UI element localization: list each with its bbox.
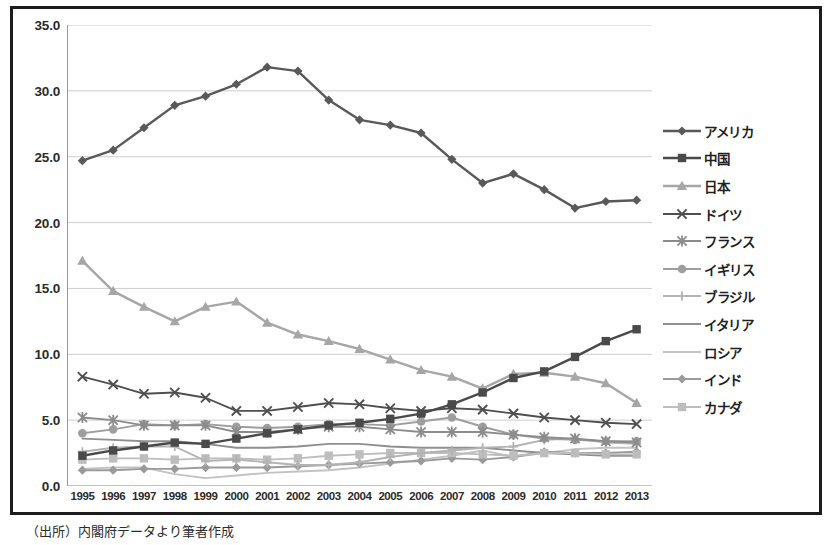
legend-marker-diamond-icon — [661, 123, 703, 139]
data-point-marker — [632, 450, 640, 458]
data-point-marker — [232, 434, 240, 442]
legend-swatch-graphic — [663, 264, 701, 273]
legend-item: フランス — [661, 227, 811, 255]
series-日本 — [77, 256, 641, 407]
series-アメリカ — [78, 63, 641, 213]
data-point-marker — [677, 375, 686, 384]
data-point-marker — [78, 156, 87, 165]
data-point-marker — [509, 169, 518, 178]
data-point-marker — [294, 425, 302, 433]
legend-item: イギリス — [661, 255, 811, 283]
x-axis-tick-label: 2005 — [375, 490, 406, 512]
data-point-marker — [325, 421, 333, 429]
legend-marker-triangle-icon — [661, 178, 703, 194]
legend-swatch-graphic — [663, 154, 701, 162]
data-point-marker — [677, 126, 686, 135]
legend-item: カナダ — [661, 393, 811, 421]
chart-figure-frame: 35.030.025.020.015.010.05.00.0 199519961… — [10, 6, 822, 515]
x-axis-tick-label: 2002 — [283, 490, 314, 512]
y-axis-tick-label: 25.0 — [35, 149, 60, 164]
x-axis-tick-label: 2010 — [529, 490, 560, 512]
data-point-marker — [78, 429, 87, 438]
data-point-marker — [232, 463, 241, 472]
data-point-marker — [386, 121, 395, 130]
chart-canvas: 35.030.025.020.015.010.05.00.0 199519961… — [13, 9, 819, 512]
y-axis-tick-label: 5.0 — [42, 413, 60, 428]
data-point-marker — [448, 400, 456, 408]
x-axis-tick-label: 2001 — [252, 490, 283, 512]
x-axis-tick-label: 2004 — [344, 490, 375, 512]
data-point-marker — [478, 388, 486, 396]
data-point-marker — [601, 197, 610, 206]
data-point-marker — [416, 456, 425, 465]
data-point-marker — [78, 466, 87, 475]
x-axis-tick-label: 2000 — [221, 490, 252, 512]
x-axis-tick-label: 1997 — [129, 490, 160, 512]
legend-label: インド — [704, 369, 742, 389]
legend-item: ロシア — [661, 338, 811, 366]
data-point-marker — [417, 417, 426, 426]
y-axis-tick-label: 10.0 — [35, 347, 60, 362]
data-point-marker — [140, 442, 148, 450]
legend-label: ブラジル — [704, 286, 755, 306]
legend-label: イタリア — [704, 314, 754, 334]
data-point-marker — [109, 446, 117, 454]
x-axis-tick-label: 1996 — [98, 490, 129, 512]
data-point-marker — [355, 450, 363, 458]
gridlines — [67, 25, 652, 486]
data-point-marker — [140, 454, 148, 462]
legend-label: イギリス — [704, 259, 755, 279]
data-point-marker — [417, 409, 425, 417]
series-line — [82, 377, 636, 424]
legend-marker-diamond-icon — [661, 371, 703, 387]
data-point-marker — [571, 449, 579, 457]
y-axis — [67, 25, 652, 486]
data-point-marker — [232, 80, 241, 89]
x-axis-tick-label: 2008 — [467, 490, 498, 512]
data-point-marker — [678, 264, 687, 273]
x-axis-tick-label: 1999 — [190, 490, 221, 512]
x-axis-tick-label: 2009 — [498, 490, 529, 512]
x-axis-tick-label: 2011 — [560, 490, 591, 512]
data-point-marker — [677, 292, 686, 301]
x-axis-tick-labels: 1995199619971998199920002001200220032004… — [67, 490, 652, 512]
legend-label: カナダ — [704, 397, 742, 417]
data-point-marker — [139, 464, 148, 473]
y-axis-tick-label: 20.0 — [35, 215, 60, 230]
data-point-marker — [678, 154, 686, 162]
legend-marker-line-icon — [661, 344, 703, 360]
legend-label: 日本 — [704, 176, 729, 196]
data-point-marker — [386, 415, 394, 423]
x-axis-tick-label: 2007 — [437, 490, 468, 512]
legend-item: 日本 — [661, 172, 811, 200]
legend-swatch-graphic — [663, 209, 701, 218]
legend-item: アメリカ — [661, 117, 811, 145]
chart-plot-svg — [67, 25, 652, 486]
legend-marker-square-icon — [661, 150, 703, 166]
data-point-marker — [324, 460, 333, 469]
data-point-marker — [571, 353, 579, 361]
data-point-marker — [171, 455, 179, 463]
legend-marker-asterisk-icon — [661, 233, 703, 249]
data-point-marker — [109, 454, 117, 462]
legend-label: ドイツ — [704, 204, 742, 224]
legend-item: 中国 — [661, 145, 811, 173]
series-line — [82, 261, 636, 403]
y-axis-tick-label: 35.0 — [35, 18, 60, 33]
data-point-marker — [263, 63, 272, 72]
legend-item: ブラジル — [661, 283, 811, 311]
data-point-marker — [509, 452, 517, 460]
data-point-marker — [171, 438, 179, 446]
data-point-marker — [632, 325, 640, 333]
legend-marker-square-icon — [661, 399, 703, 415]
data-point-marker — [325, 452, 333, 460]
y-axis-tick-label: 15.0 — [35, 281, 60, 296]
y-axis-tick-label: 30.0 — [35, 83, 60, 98]
y-axis-tick-label: 0.0 — [42, 479, 60, 494]
legend-swatch-graphic — [663, 375, 701, 384]
data-point-marker — [632, 398, 642, 407]
x-axis-tick-label: 1995 — [67, 490, 98, 512]
data-point-marker — [355, 458, 364, 467]
screenshot-root: 35.030.025.020.015.010.05.00.0 199519961… — [0, 0, 832, 545]
legend-label: フランス — [704, 231, 755, 251]
